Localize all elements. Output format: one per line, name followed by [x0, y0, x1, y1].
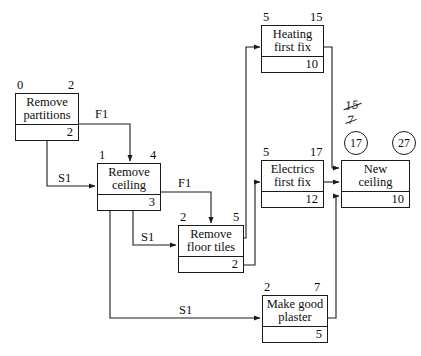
- node-remove-partitions[interactable]: Remove partitions 2: [15, 93, 79, 141]
- remove-partitions-early-start: 0: [17, 79, 23, 92]
- remove-partitions-duration: 2: [16, 124, 78, 140]
- electrics-first-fix-early-finish: 17: [310, 146, 323, 159]
- edge-label-ceiling-plaster-s1: S1: [179, 304, 192, 317]
- edge-floortiles-electrics: [243, 182, 260, 265]
- electrics-first-fix-label: Electrics first fix: [262, 161, 323, 191]
- edge-label-partitions-ceiling-f1: F1: [95, 108, 108, 121]
- edge-label-ceiling-floortiles-s1: S1: [141, 231, 154, 244]
- node-remove-floor-tiles[interactable]: Remove floor tiles 2: [178, 225, 244, 273]
- edge-ceiling-floortiles-s1: [133, 210, 176, 245]
- remove-ceiling-early-start: 1: [99, 149, 105, 162]
- new-ceiling-label: New ceiling: [342, 161, 409, 191]
- heating-first-fix-early-start: 5: [263, 11, 269, 24]
- node-heating-first-fix[interactable]: Heating first fix 10: [261, 25, 324, 73]
- edge-heating-newceiling: [323, 47, 339, 168]
- heating-first-fix-label: Heating first fix: [262, 26, 323, 56]
- remove-partitions-label: Remove partitions: [16, 94, 78, 124]
- remove-ceiling-early-finish: 4: [150, 149, 156, 162]
- annotation-crossed-out-7: 7: [346, 115, 354, 127]
- node-new-ceiling[interactable]: New ceiling 10: [341, 160, 410, 208]
- remove-floor-tiles-early-start: 2: [180, 211, 186, 224]
- heating-first-fix-duration: 10: [262, 56, 323, 72]
- edge-floortiles-heating: [243, 47, 260, 238]
- new-ceiling-duration: 10: [342, 191, 409, 207]
- make-good-plaster-early-finish: 7: [314, 281, 320, 294]
- node-make-good-plaster[interactable]: Make good plaster 5: [262, 295, 328, 343]
- node-remove-ceiling[interactable]: Remove ceiling 3: [97, 163, 161, 211]
- remove-ceiling-label: Remove ceiling: [98, 164, 160, 194]
- remove-ceiling-duration: 3: [98, 194, 160, 210]
- remove-floor-tiles-duration: 2: [179, 256, 243, 272]
- remove-floor-tiles-early-finish: 5: [233, 211, 239, 224]
- electrics-first-fix-early-start: 5: [263, 146, 269, 159]
- circled-new-ceiling-finish: 27: [392, 131, 416, 155]
- annotation-crossed-out-15: 15: [344, 99, 359, 111]
- heating-first-fix-early-finish: 15: [310, 11, 323, 24]
- make-good-plaster-early-start: 2: [264, 281, 270, 294]
- remove-floor-tiles-label: Remove floor tiles: [179, 226, 243, 256]
- edge-label-partitions-ceiling-s1: S1: [58, 172, 71, 185]
- circled-new-ceiling-start: 17: [344, 131, 368, 155]
- node-electrics-first-fix[interactable]: Electrics first fix 12: [261, 160, 324, 208]
- make-good-plaster-label: Make good plaster: [263, 296, 327, 326]
- edge-label-ceiling-floortiles-f1: F1: [178, 177, 191, 190]
- edge-plaster-newceiling: [327, 196, 339, 318]
- network-diagram-canvas: 0 2 Remove partitions 2 1 4 Remove ceili…: [0, 0, 421, 356]
- electrics-first-fix-duration: 12: [262, 191, 323, 207]
- remove-partitions-early-finish: 2: [68, 79, 74, 92]
- make-good-plaster-duration: 5: [263, 326, 327, 342]
